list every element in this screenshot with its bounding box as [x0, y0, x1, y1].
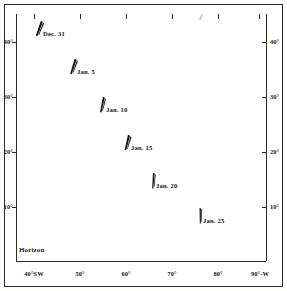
x-label-70: 70° — [158, 270, 186, 277]
x-tick-80 — [218, 14, 219, 19]
axis-left — [16, 14, 17, 261]
comet-label-jan-25: Jan. 25 — [203, 217, 225, 224]
x-label-80: 80° — [204, 270, 232, 277]
y-label-right-40: 40° — [270, 38, 284, 45]
y-tick-right-30 — [262, 97, 267, 98]
axis-right — [266, 14, 267, 261]
y-label-left-10: 10° — [2, 203, 13, 210]
y-tick-right-20 — [262, 152, 267, 153]
axis-bottom — [16, 261, 266, 262]
comet-label-dec-31: Dec. 31 — [43, 30, 65, 37]
comet-label-jan-10: Jan. 10 — [106, 106, 128, 113]
y-label-left-30: 30° — [2, 93, 13, 100]
horizon-label: Horizon — [19, 246, 45, 254]
comet-label-jan-15: Jan. 15 — [131, 144, 153, 151]
y-label-left-40: 40° — [2, 38, 13, 45]
x-label-90: 90°-W — [242, 270, 278, 277]
x-tick-50 — [80, 14, 81, 19]
x-tick-70 — [172, 14, 173, 19]
y-tick-right-40 — [262, 42, 267, 43]
x-label-50: 50° — [66, 270, 94, 277]
x-label-40: 40°SW — [16, 270, 52, 277]
y-tick-right-10 — [262, 207, 267, 208]
x-tick-40 — [34, 14, 35, 19]
y-label-left-20: 20° — [2, 148, 13, 155]
x-tick-60 — [126, 14, 127, 19]
y-label-right-20: 20° — [270, 148, 284, 155]
x-tick-90 — [259, 14, 260, 19]
x-label-60: 60° — [112, 270, 140, 277]
comet-label-jan-5: Jan. 5 — [77, 68, 95, 75]
y-label-right-30: 30° — [270, 93, 284, 100]
comet-label-jan-20: Jan. 20 — [156, 182, 178, 189]
comet-altitude-azimuth-figure: 40° 30° 20° 10° 40° 30° 20° 10° 40°SW 50… — [0, 0, 287, 291]
plot-area: 40° 30° 20° 10° 40° 30° 20° 10° 40°SW 50… — [16, 14, 266, 261]
y-label-right-10: 10° — [270, 203, 284, 210]
